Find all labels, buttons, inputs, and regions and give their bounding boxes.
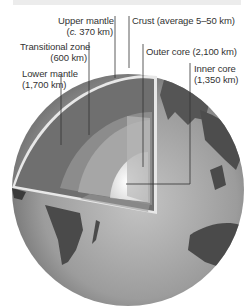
label-lower-mantle: Lower mantle (1,700 km) [22, 68, 78, 90]
label-crust: Crust (average 5–50 km) [132, 15, 235, 26]
transitional-zone-name: Transitional zone [20, 41, 87, 52]
inner-core-name: Inner core [194, 63, 238, 74]
label-inner-core: Inner core (1,350 km) [194, 63, 238, 85]
lower-mantle-name: Lower mantle [22, 68, 78, 79]
label-outer-core: Outer core (2,100 km) [146, 46, 237, 57]
lower-mantle-size: (1,700 km) [22, 79, 78, 90]
upper-mantle-name: Upper mantle [58, 15, 113, 26]
upper-mantle-size: (c. 370 km) [58, 26, 113, 37]
inner-core-size: (1,350 km) [194, 74, 238, 85]
label-transitional-zone: Transitional zone (600 km) [20, 41, 87, 63]
label-upper-mantle: Upper mantle (c. 370 km) [58, 15, 113, 37]
transitional-zone-size: (600 km) [20, 52, 87, 63]
